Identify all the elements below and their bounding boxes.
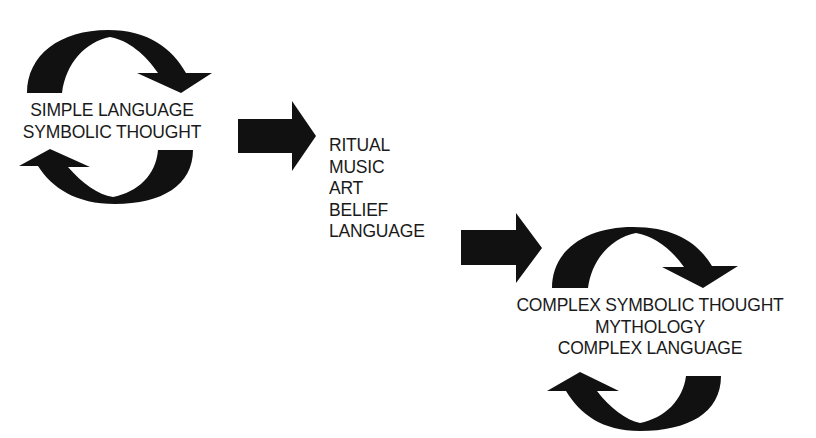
- stage2-line: COMPLEX LANGUAGE: [486, 338, 814, 360]
- block-arrow-right-icon: [461, 213, 542, 283]
- stage2-line: MYTHOLOGY: [486, 317, 814, 339]
- transition-item: LANGUAGE: [329, 221, 425, 243]
- cycle-top-arrow-icon: [552, 227, 738, 288]
- stage2-label: COMPLEX SYMBOLIC THOUGHT MYTHOLOGY COMPL…: [486, 295, 814, 360]
- transition-item: MUSIC: [329, 157, 425, 179]
- cycle-top-arrow-icon: [27, 30, 212, 93]
- transition-list: RITUAL MUSIC ART BELIEF LANGUAGE: [329, 135, 425, 243]
- cycle-bottom-arrow-icon: [547, 372, 721, 431]
- cycle-bottom-arrow-icon: [19, 149, 193, 204]
- stage1-line: SIMPLE LANGUAGE: [6, 100, 218, 122]
- transition-item: BELIEF: [329, 200, 425, 222]
- stage1-label: SIMPLE LANGUAGE SYMBOLIC THOUGHT: [6, 100, 218, 143]
- stage2-line: COMPLEX SYMBOLIC THOUGHT: [486, 295, 814, 317]
- transition-item: ART: [329, 178, 425, 200]
- block-arrow-right-icon: [238, 101, 316, 171]
- transition-item: RITUAL: [329, 135, 425, 157]
- stage1-line: SYMBOLIC THOUGHT: [6, 122, 218, 144]
